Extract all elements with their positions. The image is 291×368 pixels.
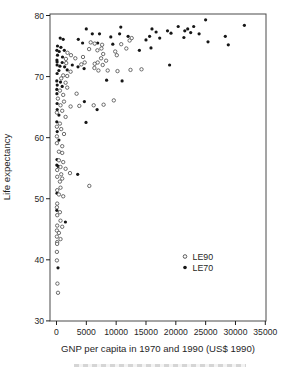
x-tick-label: 25000 [194, 327, 218, 337]
data-point-le90 [66, 74, 69, 77]
data-point-le90 [68, 171, 71, 174]
data-point-le70 [227, 43, 230, 46]
data-point-le70 [166, 29, 169, 32]
data-point-le90 [83, 61, 86, 64]
x-tick-label: 5000 [77, 327, 96, 337]
data-point-le90 [93, 66, 96, 69]
data-point-le90 [62, 93, 65, 96]
data-point-le90 [89, 41, 92, 44]
data-point-le90 [69, 105, 72, 108]
x-tick-label: 30000 [224, 327, 248, 337]
data-point-le90 [56, 214, 59, 217]
x-tick-label: 10000 [104, 327, 128, 337]
data-point-le70 [77, 38, 80, 41]
data-point-le70 [64, 220, 67, 223]
data-point-le90 [114, 50, 117, 53]
data-point-le70 [118, 32, 121, 35]
data-point-le90 [66, 51, 69, 54]
data-point-le90 [64, 167, 67, 170]
data-point-le70 [71, 63, 74, 66]
data-point-le90 [106, 69, 109, 72]
legend-label-le90: LE90 [193, 252, 214, 262]
data-point-le70 [55, 59, 58, 62]
data-point-le90 [65, 61, 68, 64]
data-point-le90 [120, 43, 123, 46]
data-point-le90 [62, 195, 65, 198]
data-point-le70 [186, 27, 189, 30]
data-point-le70 [61, 85, 64, 88]
data-point-le70 [84, 121, 87, 124]
data-point-le90 [81, 55, 84, 58]
legend: LE90 LE70 [183, 252, 213, 273]
y-axis-title: Life expectancy [1, 133, 12, 200]
data-point-le90 [57, 150, 60, 153]
data-point-le70 [198, 32, 201, 35]
data-point-le70 [59, 46, 62, 49]
data-point-le70 [56, 84, 59, 87]
data-point-le70 [55, 79, 58, 82]
data-point-le90 [64, 57, 67, 60]
data-point-le90 [80, 63, 83, 66]
data-point-le70 [63, 49, 66, 52]
data-point-le70 [63, 65, 66, 68]
data-point-le70 [66, 68, 69, 71]
x-tick-label: 15000 [134, 327, 158, 337]
data-point-le90 [57, 193, 60, 196]
data-point-le90 [60, 127, 63, 130]
data-point-le90 [96, 49, 99, 52]
data-point-le70 [206, 40, 209, 43]
data-point-le70 [155, 30, 158, 33]
data-point-le90 [102, 103, 105, 106]
data-point-le90 [55, 242, 58, 245]
data-point-le70 [138, 49, 141, 52]
x-tick-label: 0 [54, 327, 59, 337]
data-point-le70 [105, 79, 108, 82]
data-point-le70 [243, 24, 246, 27]
data-point-le90 [61, 225, 64, 228]
chart-svg: 0500010000150002000025000300003500030405… [0, 0, 291, 368]
data-point-le90 [56, 175, 59, 178]
data-point-le90 [92, 104, 95, 107]
data-point-le90 [56, 97, 59, 100]
data-point-le70 [127, 35, 130, 38]
data-point-le90 [55, 142, 58, 145]
data-point-le90 [100, 47, 103, 50]
data-point-le90 [58, 211, 61, 214]
data-point-le90 [64, 81, 67, 84]
data-point-le90 [140, 68, 143, 71]
data-point-le90 [61, 177, 64, 180]
y-tick-label: 50 [34, 194, 44, 204]
data-point-le90 [59, 165, 62, 168]
data-point-le90 [55, 111, 58, 114]
data-point-le70 [62, 38, 65, 41]
data-point-le90 [99, 57, 102, 60]
data-point-le90 [60, 173, 63, 176]
data-point-le90 [62, 100, 65, 103]
y-tick-label: 60 [34, 133, 44, 143]
data-point-le90 [69, 54, 72, 57]
data-point-le70 [81, 41, 84, 44]
data-point-le90 [101, 63, 104, 66]
data-point-le70 [98, 32, 101, 35]
data-point-le90 [78, 104, 81, 107]
data-point-le90 [55, 250, 58, 253]
data-point-le90 [55, 206, 58, 209]
y-tick-label: 70 [34, 72, 44, 82]
data-point-le70 [83, 67, 86, 70]
data-point-le70 [83, 100, 86, 103]
data-point-le70 [119, 26, 122, 29]
data-point-le90 [56, 189, 59, 192]
data-point-le70 [169, 32, 172, 35]
data-point-le70 [61, 61, 64, 64]
data-point-le90 [58, 122, 61, 125]
data-point-le70 [158, 37, 161, 40]
data-point-le90 [93, 42, 96, 45]
data-point-le90 [60, 77, 63, 80]
data-point-le70 [183, 29, 186, 32]
data-point-le70 [204, 18, 207, 21]
data-point-le70 [168, 63, 171, 66]
data-point-le70 [59, 37, 62, 40]
data-point-le70 [76, 65, 79, 68]
data-point-le90 [61, 151, 64, 154]
data-point-le70 [144, 38, 147, 41]
